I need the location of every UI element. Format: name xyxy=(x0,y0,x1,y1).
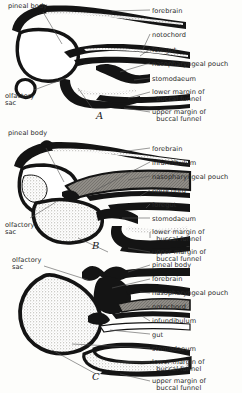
label-b-olfactory-sac: olfactory sac xyxy=(5,222,35,237)
olfactory-sac-c xyxy=(20,275,101,354)
label-b-foregut: foregut xyxy=(152,202,176,209)
label-a-forebrain: forebrain xyxy=(152,8,182,15)
panel-letter-c: C xyxy=(92,371,100,382)
label-c-notochord: notochord xyxy=(152,304,186,311)
label-c-forebrain: forebrain xyxy=(152,276,182,283)
label-b-nasopharyngeal-pouch: nasopharyngeal pouch xyxy=(152,174,228,181)
label-b-infundibulum: infundibulum xyxy=(152,160,196,167)
label-c-infundibulum: infundibulum xyxy=(152,318,196,325)
label-a-lower-margin-buccal-funnel: lower margin of buccal funnel xyxy=(152,89,205,104)
stomodaeum-b xyxy=(33,199,102,242)
label-c-gut: gut xyxy=(152,332,163,339)
label-a-pineal-body: pineal body xyxy=(8,3,47,10)
label-a-notochord: notochord xyxy=(152,32,186,39)
label-c-olfactory-sac: olfactory sac xyxy=(12,257,42,272)
nasopharyngeal-pouch-a xyxy=(96,64,150,84)
label-c-stomodaeum: stomodaeum xyxy=(152,346,196,353)
label-b-lower-margin-buccal-funnel: lower margin of buccal funnel xyxy=(152,229,205,244)
label-a-foregut: foregut xyxy=(152,47,176,54)
buccal-lumen-a xyxy=(76,89,136,96)
label-a-nasopharyngeal-pouch: nasopharyngeal pouch xyxy=(152,61,228,68)
label-b-notochord: notochord xyxy=(152,188,186,195)
label-c-nasopharyngeal-pouch: nasopharyngeal pouch xyxy=(152,290,228,297)
label-c-upper-margin-buccal-funnel: upper margin of buccal funnel xyxy=(152,378,206,393)
panel-letter-b: B xyxy=(92,240,99,251)
panel-letter-a: A xyxy=(96,110,103,121)
label-a-upper-margin-buccal-funnel: upper margin of buccal funnel xyxy=(152,109,206,124)
anatomical-figure: pineal body olfactory sac forebrain noto… xyxy=(0,0,242,393)
label-b-forebrain: forebrain xyxy=(152,146,182,153)
label-c-pineal-body: pineal body xyxy=(152,262,191,269)
label-a-stomodaeum: stomodaeum xyxy=(152,76,196,83)
label-b-stomodaeum: stomodaeum xyxy=(152,216,196,223)
label-b-pineal-body: pineal body xyxy=(8,130,47,137)
label-a-olfactory-sac: olfactory sac xyxy=(5,93,35,108)
label-c-lower-margin-buccal-funnel: lower margin of buccal funnel xyxy=(152,359,205,374)
gut-hook-c xyxy=(88,313,110,325)
figure-canvas xyxy=(0,0,242,393)
